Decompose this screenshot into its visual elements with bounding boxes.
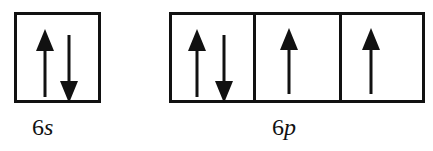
principal-quantum-number: 6 — [32, 114, 44, 140]
electron-down-arrow-icon — [214, 35, 234, 105]
electron-up-arrow-icon — [279, 28, 299, 98]
electron-up-arrow-icon — [187, 29, 207, 99]
subshell-letter: s — [44, 114, 53, 140]
electron-down-arrow-icon — [59, 35, 79, 105]
orbital-box-6s — [14, 12, 101, 103]
subshell-letter: p — [284, 114, 296, 140]
principal-quantum-number: 6 — [272, 114, 284, 140]
electron-up-arrow-icon — [361, 28, 381, 98]
electron-up-arrow-icon — [35, 29, 55, 99]
orbital-6p-1 — [172, 15, 254, 100]
subshell-label-6s: 6s — [32, 114, 53, 141]
orbital-6p-2 — [256, 15, 339, 100]
orbital-box-6p — [169, 12, 425, 103]
orbital-6p-3 — [342, 15, 425, 100]
subshell-label-6p: 6p — [272, 114, 296, 141]
